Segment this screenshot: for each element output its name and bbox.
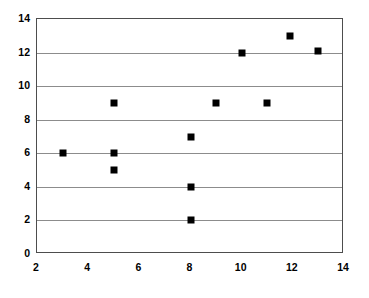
data-point: [187, 183, 194, 190]
gridline-y-8: [37, 120, 342, 121]
y-tick-label-14: 14: [18, 13, 30, 24]
x-axis-tick-labels: 2468101214: [0, 262, 369, 278]
x-tick-label-2: 2: [33, 262, 39, 273]
y-tick-label-8: 8: [24, 113, 30, 124]
y-tick-label-6: 6: [24, 147, 30, 158]
data-point: [187, 133, 194, 140]
scatter-chart: 02468101214 2468101214: [0, 0, 369, 298]
data-point: [264, 99, 271, 106]
data-point: [287, 32, 294, 39]
x-tick-label-8: 8: [187, 262, 193, 273]
gridline-y-10: [37, 86, 342, 87]
data-point: [110, 99, 117, 106]
y-axis-tick-labels: 02468101214: [0, 18, 30, 253]
y-tick-label-0: 0: [24, 248, 30, 259]
x-tick-label-12: 12: [286, 262, 298, 273]
x-tick-label-14: 14: [337, 262, 349, 273]
data-point: [238, 49, 245, 56]
x-tick-label-10: 10: [235, 262, 247, 273]
data-point: [213, 99, 220, 106]
data-point: [59, 150, 66, 157]
x-tick-label-6: 6: [135, 262, 141, 273]
data-point: [110, 150, 117, 157]
data-point: [110, 167, 117, 174]
data-point: [315, 47, 322, 54]
y-tick-label-2: 2: [24, 214, 30, 225]
y-tick-label-4: 4: [24, 181, 30, 192]
gridline-y-12: [37, 53, 342, 54]
plot-area: [36, 18, 343, 253]
data-point: [187, 217, 194, 224]
y-tick-label-12: 12: [18, 46, 30, 57]
x-tick-label-4: 4: [84, 262, 90, 273]
gridline-y-6: [37, 153, 342, 154]
y-tick-label-10: 10: [18, 80, 30, 91]
